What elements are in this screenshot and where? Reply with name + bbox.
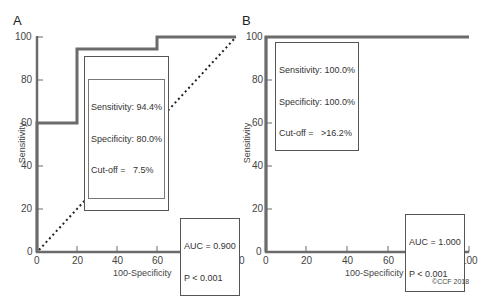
panel-a-auc: AUC = 0.900 (184, 241, 236, 252)
panel-b-xtick-20: 20 (301, 255, 312, 266)
panel-b-ytick-60: 60 (252, 117, 263, 128)
panel-a-cutoff-box: Sensitivity: 94.4% Specificity: 80.0% Cu… (84, 56, 169, 211)
panel-b-label: B (242, 13, 251, 28)
panel-b-xtick-40: 40 (342, 255, 353, 266)
panel-b-auc: AUC = 1.000 (409, 237, 461, 248)
panel-b-cutoff-box: Sensitivity: 100.0% Specificity: 100.0% … (275, 42, 359, 151)
panel-b-specificity: Specificity: 100.0% (279, 97, 355, 108)
panel-a-ytick-20: 20 (21, 203, 32, 214)
panel-a-ylabel: Sensitivity (17, 118, 27, 168)
panel-a-xtick-40: 40 (112, 255, 123, 266)
panel-b-ytick-100: 100 (246, 31, 263, 42)
panel-b-ytick-40: 40 (252, 160, 263, 171)
panel-a-ytick-100: 100 (15, 31, 32, 42)
panel-a-pvalue: P < 0.001 (184, 273, 236, 284)
panel-a-xtick-0: 0 (34, 255, 40, 266)
panel-b-ytick-0: 0 (256, 246, 262, 257)
panel-a-sensitivity: Sensitivity: 94.4% (91, 102, 162, 113)
copyright-notice: ©CCF 2018 (432, 278, 469, 285)
panel-b-xtick-0: 0 (263, 255, 269, 266)
panel-a-specificity: Specificity: 80.0% (91, 134, 162, 145)
panel-b-ytick-20: 20 (252, 203, 263, 214)
panel-b-xtick-60: 60 (383, 255, 394, 266)
panel-a-xlabel: 100-Specificity (113, 268, 172, 278)
panel-b-xlabel: 100-Specificity (345, 268, 404, 278)
panel-a-ytick-0: 0 (27, 246, 33, 257)
panel-b-sensitivity: Sensitivity: 100.0% (279, 65, 355, 76)
panel-b-ylabel: Sensitivity (242, 118, 252, 168)
panel-b-ytick-80: 80 (252, 74, 263, 85)
panel-b-cutoff: Cut-off = >16.2% (279, 128, 355, 139)
panel-a-cutoff: Cut-off = 7.5% (91, 165, 162, 176)
panel-a-auc-box: AUC = 0.900 P < 0.001 (180, 218, 240, 296)
panel-a-ytick-80: 80 (21, 74, 32, 85)
panel-a-xtick-20: 20 (72, 255, 83, 266)
panel-a-label: A (13, 13, 22, 28)
panel-a-xtick-60: 60 (152, 255, 163, 266)
